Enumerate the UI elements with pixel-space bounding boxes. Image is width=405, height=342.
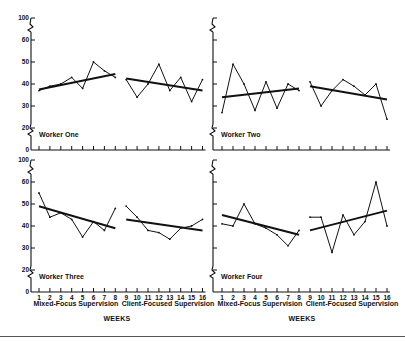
data-point xyxy=(375,181,377,183)
y-tick-label: 100 xyxy=(18,156,29,163)
data-point xyxy=(147,230,149,232)
data-point xyxy=(386,118,388,120)
data-point xyxy=(276,107,278,109)
data-point xyxy=(265,227,267,229)
y-tick-label: 100 xyxy=(18,14,29,21)
data-point xyxy=(243,83,245,85)
y-tick-label: 20 xyxy=(22,124,30,131)
data-point xyxy=(309,81,311,83)
data-point xyxy=(232,225,234,227)
data-point xyxy=(93,61,95,63)
data-point xyxy=(180,77,182,79)
worker-label: Worker Two xyxy=(221,131,260,138)
data-point xyxy=(364,221,366,223)
data-point xyxy=(320,216,322,218)
data-point xyxy=(287,245,289,247)
data-point xyxy=(49,216,51,218)
bottom-divider xyxy=(0,336,405,337)
data-point xyxy=(221,112,223,114)
data-point xyxy=(320,105,322,107)
phase-label-client-right: Client-Focused Supervision xyxy=(306,300,399,308)
x-axis-title-right: WEEKS xyxy=(288,315,315,322)
data-point xyxy=(104,230,106,232)
data-point xyxy=(191,101,193,103)
y-tick-label: 60 xyxy=(22,178,30,185)
data-series-line xyxy=(126,206,202,239)
y-tick-label: 50 xyxy=(22,200,30,207)
data-point xyxy=(71,219,73,221)
worker-label: Worker Three xyxy=(39,273,84,280)
x-axis-title-left: WEEKS xyxy=(103,315,130,322)
y-tick-label: 30 xyxy=(22,102,30,109)
trend-line xyxy=(126,79,202,91)
data-point xyxy=(169,90,171,92)
data-point xyxy=(147,83,149,85)
data-point xyxy=(125,205,127,207)
phase-label-mixed-right: Mixed-Focus Supervision xyxy=(218,300,303,308)
trend-line xyxy=(126,219,202,230)
data-point xyxy=(243,203,245,205)
data-point xyxy=(232,63,234,65)
data-point xyxy=(158,63,160,65)
phase-label-client-left: Client-Focused Supervision xyxy=(122,300,215,308)
multi-panel-line-chart: 02030405060100Worker OneWorker Two020304… xyxy=(0,0,405,342)
y-tick-label: 0 xyxy=(25,146,29,153)
data-point xyxy=(169,238,171,240)
data-point xyxy=(298,90,300,92)
trend-line xyxy=(310,86,387,99)
data-point xyxy=(276,234,278,236)
data-point xyxy=(82,236,84,238)
worker-label: Worker Four xyxy=(221,273,263,280)
data-point xyxy=(342,214,344,216)
data-point xyxy=(254,110,256,112)
panel-worker-three: 0203040506010012345678910111213141516Wor… xyxy=(18,156,206,301)
data-point xyxy=(202,79,204,81)
panel-worker-two: Worker Two xyxy=(210,18,390,150)
data-point xyxy=(386,225,388,227)
data-point xyxy=(375,83,377,85)
data-point xyxy=(191,225,193,227)
data-point xyxy=(353,234,355,236)
y-tick-label: 20 xyxy=(22,266,30,273)
data-point xyxy=(104,70,106,72)
data-point xyxy=(298,230,300,232)
data-point xyxy=(265,81,267,83)
data-series-line xyxy=(222,64,299,112)
data-point xyxy=(309,216,311,218)
trend-line xyxy=(39,74,115,89)
data-point xyxy=(136,96,138,98)
data-point xyxy=(82,88,84,90)
y-tick-label: 50 xyxy=(22,58,30,65)
data-point xyxy=(38,192,40,194)
y-tick-label: 40 xyxy=(22,222,30,229)
y-tick-label: 60 xyxy=(22,36,30,43)
phase-label-mixed-left: Mixed-Focus Supervision xyxy=(34,300,119,308)
data-point xyxy=(287,83,289,85)
data-point xyxy=(71,77,73,79)
data-point xyxy=(114,77,116,79)
data-point xyxy=(353,85,355,87)
data-point xyxy=(114,208,116,210)
data-series-line xyxy=(126,64,202,101)
y-axis-upper xyxy=(210,160,215,266)
y-tick-label: 40 xyxy=(22,80,30,87)
y-axis-upper xyxy=(210,18,215,124)
y-tick-label: 30 xyxy=(22,244,30,251)
data-point xyxy=(202,219,204,221)
y-tick-label: 0 xyxy=(25,288,29,295)
data-point xyxy=(342,79,344,81)
panel-worker-four: 12345678910111213141516Worker Four xyxy=(210,160,391,301)
data-series-line xyxy=(310,80,387,120)
worker-label: Worker One xyxy=(39,131,79,138)
data-point xyxy=(221,223,223,225)
data-point xyxy=(158,232,160,234)
panel-worker-one: 02030405060100Worker One xyxy=(18,14,205,153)
data-point xyxy=(136,216,138,218)
data-point xyxy=(331,252,333,254)
